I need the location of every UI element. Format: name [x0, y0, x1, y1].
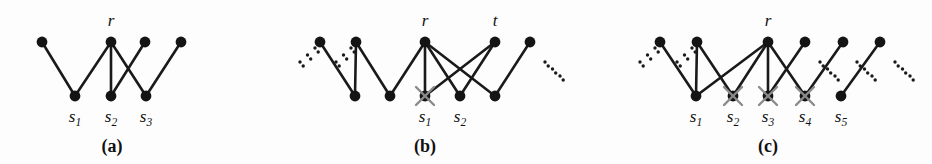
- b-top-r: [420, 37, 431, 48]
- edge: [660, 42, 696, 96]
- b-bot-s2-label: s2: [454, 107, 467, 128]
- b-top-5: [525, 37, 536, 48]
- ellipsis-dot: [551, 67, 554, 70]
- ellipsis-dot: [306, 53, 309, 56]
- ellipsis-dot: [901, 67, 904, 70]
- c-top-r: [763, 37, 774, 48]
- a-top-3: [140, 37, 151, 48]
- ellipsis-dot: [317, 50, 320, 53]
- c-ellipsis-5-icon: [893, 60, 915, 81]
- b-top-t: [490, 37, 501, 48]
- a-top-r: [106, 37, 117, 48]
- c-bot-s1: [691, 91, 702, 102]
- ellipsis-dot: [334, 60, 337, 63]
- c-bot-s5: [836, 91, 847, 102]
- panel-b-edges: [320, 42, 530, 96]
- a-top-1: [37, 37, 48, 48]
- ellipsis-dot: [897, 64, 900, 67]
- ellipsis-dot: [554, 71, 557, 74]
- ellipsis-dot: [309, 57, 312, 60]
- c-bot-s4-cross-icon: [796, 87, 814, 105]
- ellipsis-dot: [859, 64, 862, 67]
- a-bot-s2-label: s2: [105, 107, 118, 128]
- b-bot-2: [385, 91, 396, 102]
- ellipsis-dot: [863, 67, 866, 70]
- b-bot-1: [350, 91, 361, 102]
- b-top-r-label: r: [422, 11, 429, 30]
- ellipsis-dot: [866, 71, 869, 74]
- ellipsis-dot: [912, 78, 915, 81]
- ellipsis-dot: [837, 78, 840, 81]
- panel-caption-c: (c): [758, 136, 778, 157]
- ellipsis-dot: [298, 60, 301, 63]
- c-top-6: [875, 37, 886, 48]
- b-ellipsis-left-icon: [298, 46, 320, 67]
- ellipsis-dot: [338, 64, 341, 67]
- edge: [146, 42, 181, 96]
- ellipsis-dot: [893, 60, 896, 63]
- c-top-5: [838, 37, 849, 48]
- ellipsis-dot: [694, 50, 697, 53]
- b-top-t-label: t: [493, 11, 499, 30]
- ellipsis-dot: [349, 46, 352, 49]
- ellipsis-dot: [855, 60, 858, 63]
- figure-canvas: rs1s2s3(a)rts1s2(b)rs1s2s3s4s5(c): [0, 0, 932, 164]
- c-top-1: [655, 37, 666, 48]
- c-bot-s5-label: s5: [835, 107, 848, 128]
- edge: [697, 42, 733, 96]
- edge: [805, 42, 843, 96]
- ellipsis-dot: [642, 64, 645, 67]
- ellipsis-dot: [829, 71, 832, 74]
- panel-caption-b: (b): [414, 136, 436, 157]
- ellipsis-dot: [646, 53, 649, 56]
- a-bot-s3: [141, 91, 152, 102]
- figure-graph-panels: rs1s2s3(a)rts1s2(b)rs1s2s3s4s5(c): [0, 0, 932, 164]
- ellipsis-dot: [558, 74, 561, 77]
- edge: [355, 42, 356, 96]
- edge: [495, 42, 530, 96]
- c-bot-s4-label: s4: [799, 107, 812, 128]
- panel-b: rts1s2(b): [298, 11, 565, 157]
- ellipsis-dot: [353, 50, 356, 53]
- panel-a: rs1s2s3(a): [37, 11, 187, 157]
- ellipsis-dot: [826, 67, 829, 70]
- panel-caption-a: (a): [102, 136, 123, 157]
- b-top-2: [351, 37, 362, 48]
- panel-c-edges: [660, 42, 880, 96]
- b-bot-5: [490, 91, 501, 102]
- b-ellipsis-mid-icon: [334, 46, 356, 67]
- ellipsis-dot: [562, 78, 565, 81]
- c-bot-s2-cross-icon: [724, 87, 742, 105]
- panel-c: rs1s2s3s4s5(c): [638, 11, 915, 157]
- ellipsis-dot: [683, 53, 686, 56]
- c-top-2: [692, 37, 703, 48]
- edge: [696, 42, 768, 96]
- c-bot-s1-label: s1: [690, 107, 702, 128]
- a-bot-s2: [106, 91, 117, 102]
- c-top-r-label: r: [765, 11, 772, 30]
- a-bot-s1-label: s1: [69, 107, 81, 128]
- c-bot-s2-label: s2: [727, 107, 740, 128]
- b-bot-s2: [455, 91, 466, 102]
- c-ellipsis-1-icon: [638, 46, 660, 67]
- ellipsis-dot: [649, 57, 652, 60]
- ellipsis-dot: [690, 46, 693, 49]
- ellipsis-dot: [908, 74, 911, 77]
- ellipsis-dot: [657, 50, 660, 53]
- edge: [841, 42, 880, 96]
- ellipsis-dot: [870, 74, 873, 77]
- c-ellipsis-2-icon: [675, 46, 697, 67]
- c-bot-s3-label: s3: [762, 107, 775, 128]
- edge: [42, 42, 75, 96]
- ellipsis-dot: [679, 64, 682, 67]
- edge: [356, 42, 390, 96]
- edge: [320, 42, 355, 96]
- edge: [390, 42, 425, 96]
- c-top-4: [800, 37, 811, 48]
- ellipsis-dot: [833, 74, 836, 77]
- ellipsis-dot: [818, 60, 821, 63]
- edge: [75, 42, 111, 96]
- ellipsis-dot: [653, 46, 656, 49]
- edge: [696, 42, 697, 96]
- ellipsis-dot: [543, 60, 546, 63]
